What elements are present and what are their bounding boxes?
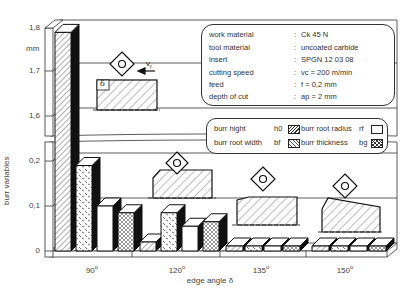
y-tick-0: 0: [16, 246, 40, 255]
cutting-conditions-box: work material:Ck 45 N tool material:unco…: [201, 24, 395, 106]
condition-value: ap = 2 mm: [301, 92, 337, 101]
blank-swatch-icon: [371, 125, 383, 134]
x-tick-120: 120o: [157, 264, 197, 275]
colon: :: [294, 55, 296, 64]
degree-sign: o: [266, 264, 269, 270]
colon: :: [294, 92, 296, 101]
y-tick-1-8: 1,8: [16, 23, 40, 32]
y-tick-0-1: 0,1: [16, 201, 40, 210]
y-tick-1-7: 1,7: [16, 66, 40, 75]
hatch-swatch-icon: [288, 125, 300, 134]
legend-label: burr root radius: [301, 124, 352, 133]
legend: burr hight h0 burr root radius rf burr r…: [206, 118, 388, 154]
condition-row: insert:SPGN 12 03 08: [209, 55, 389, 67]
y-tick-0-2: 0,2: [16, 156, 40, 165]
legend-label: burr thickness: [301, 138, 348, 147]
legend-symbol: h0: [274, 124, 282, 133]
delta-label: δ: [100, 79, 105, 88]
x-tick-150: 150o: [325, 264, 365, 275]
colon: :: [294, 80, 296, 89]
y-axis-unit: mm: [26, 44, 39, 53]
degree-sign: o: [95, 264, 98, 270]
degree-sign: o: [350, 264, 353, 270]
tool-sketch-135: [232, 167, 300, 225]
x-tick-120-label: 120: [169, 266, 182, 275]
x-axis-label: edge angle δ: [170, 276, 250, 285]
x-tick-90: 90o: [72, 264, 112, 275]
legend-symbol: bf: [274, 138, 280, 147]
condition-row: work material:Ck 45 N: [209, 30, 389, 42]
legend-label: burr hight: [214, 124, 246, 133]
bar-burr-root-width-90: [76, 158, 100, 252]
condition-value: Ck 45 N: [301, 30, 328, 39]
colon: :: [294, 43, 296, 52]
condition-value: SPGN 12 03 08: [301, 55, 354, 64]
condition-key: insert: [209, 55, 227, 64]
bar-burr-root-width-120: [161, 205, 185, 251]
condition-row: depth of cut:ap = 2 mm: [209, 92, 389, 104]
dashes-swatch-icon: [288, 139, 300, 148]
bar-burr-thickness-120: [203, 214, 227, 251]
condition-key: cutting speed: [209, 68, 254, 77]
legend-item-burr-hight: burr hight h0: [214, 124, 300, 135]
condition-key: work material: [209, 30, 254, 39]
legend-symbol: bg: [359, 138, 367, 147]
x-tick-150-label: 150: [337, 266, 350, 275]
condition-key: tool material: [209, 43, 250, 52]
bar-burr-hight-90: [55, 24, 79, 251]
condition-row: feed:f = 0,2 mm: [209, 80, 389, 92]
crosshatch-swatch-icon: [371, 139, 383, 148]
condition-key: feed: [209, 80, 224, 89]
legend-item-burr-root-width: burr root width bf: [214, 138, 300, 149]
condition-key: depth of cut: [209, 92, 248, 101]
x-tick-135: 135o: [241, 264, 281, 275]
condition-value: uncoated carbide: [301, 43, 359, 52]
condition-row: cutting speed:vc = 200 m/min: [209, 68, 389, 80]
y-axis-label: burr variables: [2, 157, 11, 205]
tool-sketch-150: [318, 174, 383, 232]
bar-burr-thickness-90: [118, 205, 142, 251]
y-tick-1-6: 1,6: [16, 111, 40, 120]
legend-label: burr root width: [214, 138, 262, 147]
legend-item-burr-thickness: burr thickness bg: [301, 138, 385, 149]
colon: :: [294, 68, 296, 77]
colon: :: [294, 30, 296, 39]
condition-row: tool material:uncoated carbide: [209, 43, 389, 55]
legend-item-burr-root-radius: burr root radius rf: [301, 124, 385, 135]
degree-sign: o: [182, 264, 185, 270]
x-tick-90-label: 90: [86, 266, 95, 275]
x-tick-135-label: 135: [253, 266, 266, 275]
condition-value: f = 0,2 mm: [301, 80, 337, 89]
feed-velocity-label: vf: [146, 59, 151, 70]
bar-burr-root-radius-90: [97, 198, 121, 251]
condition-value: vc = 200 m/min: [301, 68, 352, 77]
tool-sketch-120: [148, 152, 216, 198]
legend-symbol: rf: [359, 124, 364, 133]
bar-burr-root-radius-120: [182, 218, 206, 251]
